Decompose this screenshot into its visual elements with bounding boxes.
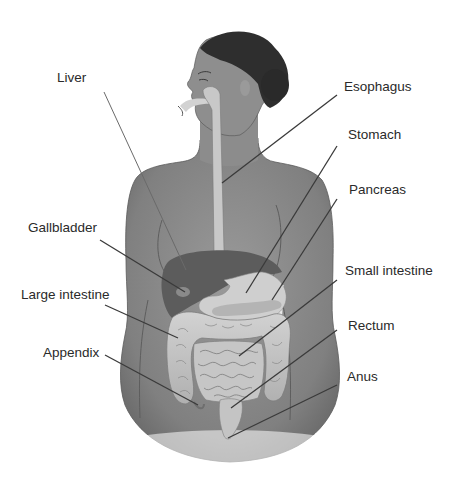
head (178, 31, 289, 135)
label-liver: Liver (57, 71, 86, 85)
label-small-intestine: Small intestine (345, 264, 433, 278)
digestive-system-figure: Liver Gallbladder Large intestine Append… (0, 0, 460, 477)
label-esophagus: Esophagus (344, 80, 412, 94)
label-anus: Anus (347, 370, 378, 384)
label-large-intestine: Large intestine (21, 288, 110, 302)
label-gallbladder: Gallbladder (28, 221, 97, 235)
label-pancreas: Pancreas (349, 183, 406, 197)
label-rectum: Rectum (348, 319, 395, 333)
small-intestine (194, 341, 265, 402)
label-appendix: Appendix (43, 346, 99, 360)
label-stomach: Stomach (348, 128, 401, 142)
